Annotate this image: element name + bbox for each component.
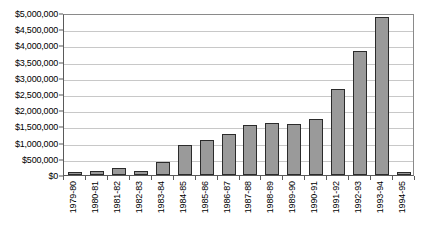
bar [331, 89, 345, 176]
x-axis-tick-mark [151, 176, 152, 180]
plot-area [63, 14, 414, 176]
x-axis-tick-mark [282, 176, 283, 180]
bar-chart: $0$500,000$1,000,000$1,500,000$2,000,000… [0, 0, 428, 229]
bar [287, 124, 301, 175]
y-axis-tick-label: $4,500,000 [15, 26, 58, 35]
x-axis-tick-mark [348, 176, 349, 180]
x-axis-tick-label: 1980-81 [91, 181, 100, 213]
x-axis-tick-label: 1992-93 [354, 181, 363, 213]
y-axis-tick-label: $0 [48, 172, 58, 181]
x-axis-tick-mark [260, 176, 261, 180]
bar-slot [240, 15, 262, 175]
y-axis-tick-label: $2,500,000 [15, 91, 58, 100]
x-axis: 1979-801980-811981-821982-831983-841984-… [63, 181, 414, 229]
x-axis-tick-label: 1984-85 [179, 181, 188, 213]
y-axis-tick-label: $1,500,000 [15, 123, 58, 132]
x-axis-tick-mark [239, 176, 240, 180]
x-axis-tick-mark [107, 176, 108, 180]
y-axis: $0$500,000$1,000,000$1,500,000$2,000,000… [0, 0, 63, 229]
bar [309, 119, 323, 175]
bar [156, 162, 170, 175]
bar-slot [130, 15, 152, 175]
y-axis-tick-label: $5,000,000 [15, 10, 58, 19]
y-axis-tick-label: $500,000 [22, 155, 58, 164]
bar [178, 145, 192, 175]
bar-slot [64, 15, 86, 175]
bar [243, 125, 257, 175]
x-axis-tick-mark [414, 176, 415, 180]
x-axis-tick-label: 1987-88 [244, 181, 253, 213]
y-axis-tick-label: $3,000,000 [15, 74, 58, 83]
bar [200, 140, 214, 175]
x-axis-tick-mark [217, 176, 218, 180]
bar [375, 17, 389, 175]
x-axis-tick-mark [85, 176, 86, 180]
x-axis-tick-label: 1982-83 [135, 181, 144, 213]
y-axis-tick-label: $1,000,000 [15, 139, 58, 148]
y-axis-tick-label: $4,000,000 [15, 42, 58, 51]
x-axis-tick-mark [195, 176, 196, 180]
x-axis-tick-label: 1986-87 [223, 181, 232, 213]
bar [68, 172, 82, 175]
bar [112, 168, 126, 175]
x-axis-tick-mark [173, 176, 174, 180]
x-axis-tick-mark [129, 176, 130, 180]
x-axis-tick-marks [63, 176, 414, 180]
bars-layer [64, 15, 413, 175]
bar-slot [283, 15, 305, 175]
bar-slot [261, 15, 283, 175]
y-axis-tick-label: $2,000,000 [15, 107, 58, 116]
bar [222, 134, 236, 175]
x-axis-tick-label: 1989-90 [288, 181, 297, 213]
bar [265, 123, 279, 175]
bar [134, 171, 148, 175]
bar [90, 171, 104, 175]
x-axis-tick-label: 1988-89 [266, 181, 275, 213]
x-axis-tick-label: 1993-94 [376, 181, 385, 213]
bar-slot [152, 15, 174, 175]
bar-slot [108, 15, 130, 175]
x-axis-tick-mark [370, 176, 371, 180]
bar-slot [218, 15, 240, 175]
x-axis-tick-mark [392, 176, 393, 180]
bar-slot [174, 15, 196, 175]
x-axis-tick-label: 1990-91 [310, 181, 319, 213]
bar-slot [305, 15, 327, 175]
x-axis-tick-label: 1983-84 [157, 181, 166, 213]
bar-slot [196, 15, 218, 175]
bar-slot [327, 15, 349, 175]
x-axis-tick-mark [326, 176, 327, 180]
x-axis-tick-label: 1985-86 [201, 181, 210, 213]
bar-slot [371, 15, 393, 175]
bar-slot [393, 15, 415, 175]
x-axis-tick-mark [63, 176, 64, 180]
bar [353, 51, 367, 175]
x-axis-tick-label: 1979-80 [69, 181, 78, 213]
x-axis-tick-label: 1991-92 [332, 181, 341, 213]
x-axis-tick-label: 1994-95 [398, 181, 407, 213]
bar-slot [86, 15, 108, 175]
x-axis-tick-label: 1981-82 [113, 181, 122, 213]
y-axis-tick-label: $3,500,000 [15, 58, 58, 67]
bar [397, 172, 411, 175]
x-axis-tick-mark [304, 176, 305, 180]
bar-slot [349, 15, 371, 175]
